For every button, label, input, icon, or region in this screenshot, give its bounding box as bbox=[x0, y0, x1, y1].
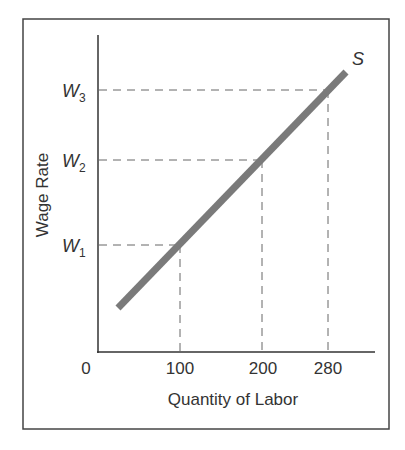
x-tick-200: 200 bbox=[249, 359, 277, 378]
y-tick-w2: W2 bbox=[62, 151, 86, 175]
y-axis-label: Wage Rate bbox=[33, 153, 52, 237]
x-axis-label: Quantity of Labor bbox=[168, 390, 299, 409]
y-tick-w3: W3 bbox=[62, 81, 86, 105]
supply-chart: S W3 W2 W1 Wage Rate 0 100 200 280 Quant… bbox=[0, 0, 405, 450]
curve-label-s: S bbox=[352, 49, 364, 69]
x-tick-280: 280 bbox=[314, 359, 342, 378]
x-tick-100: 100 bbox=[166, 359, 194, 378]
x-tick-0: 0 bbox=[81, 359, 90, 378]
supply-curve bbox=[118, 72, 346, 308]
y-tick-w1: W1 bbox=[62, 236, 86, 260]
